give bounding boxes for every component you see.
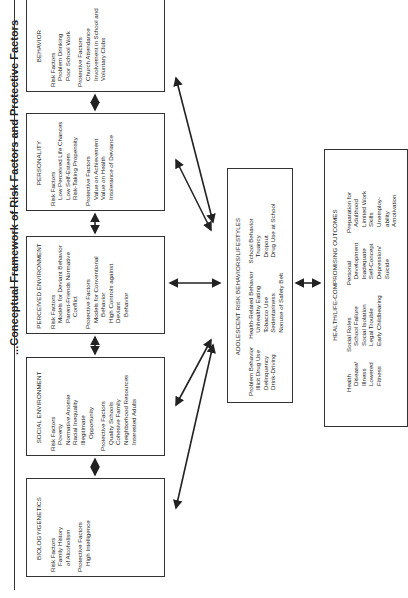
column-item: Suicide	[383, 243, 391, 285]
protective-label: Protective Factors	[99, 364, 107, 451]
figure-title: ...Conceptual Framework of Risk Factors …	[8, 0, 24, 598]
column-label: Social Roles	[345, 295, 353, 352]
column-item: Legal Trouble	[367, 295, 375, 352]
protective-item: High Intelligence	[84, 485, 92, 572]
column-label: Problem Behavior	[247, 347, 255, 396]
protective-item: Behavior	[99, 243, 107, 329]
risk-item: Poverty	[56, 364, 64, 451]
risk-label: Risk Factors	[49, 364, 57, 451]
risk-label: Risk Factors	[49, 5, 57, 87]
risk-item: Conflict	[71, 243, 79, 329]
risk-item: Models for Deviant Behavior	[56, 243, 64, 329]
title-rule	[14, 0, 15, 590]
risk-item: Illegitimate	[79, 364, 87, 451]
box-health-life-outcomes: HEALTH/LIFE-COMPROMISING OUTCOMES Health…	[324, 149, 408, 427]
column-item: Delinquency	[262, 347, 270, 396]
column-item: Inadequate	[360, 243, 368, 285]
arrow-biology-central	[176, 345, 213, 508]
column-item: Skills	[367, 191, 375, 233]
column-item: Unemploy-	[375, 191, 383, 233]
protective-item: Cohesive Family	[114, 364, 122, 451]
protective-item: Involvement in School and	[92, 5, 100, 87]
title-area: ...Conceptual Framework of Risk Factors …	[0, 0, 20, 598]
column-item: Truancy	[254, 204, 262, 264]
protective-item: Church Attendance	[84, 5, 92, 87]
protective-label: Protective Factors	[76, 485, 84, 572]
box-behavior: BEHAVIOR Risk Factors Problem Drinking P…	[26, 0, 165, 92]
protective-item: Models for Conventional	[92, 243, 100, 329]
risk-item: Low Perceived Life Chances	[56, 120, 64, 206]
box-heading: PERCEIVED ENVIRONMENT	[35, 243, 43, 329]
column-item: Amotivation	[390, 191, 398, 233]
column-item: Drug Use at School	[269, 204, 277, 264]
column-item: Early Childbearing	[375, 295, 383, 352]
column-item: Drink-Driving	[269, 347, 277, 396]
protective-item: Neighborhood Resources	[122, 364, 130, 451]
protective-label: Protective Factors	[84, 243, 92, 329]
arrow-social-central	[176, 340, 211, 405]
box-heading: BIOLOGY/GENETICS	[35, 485, 43, 572]
protective-label: Protective Factors	[76, 5, 84, 87]
column-item: Nonuse of Safety Belt	[277, 271, 285, 338]
risk-item: Racial Inequality	[71, 364, 79, 451]
risk-item: Poor School Work	[64, 5, 72, 87]
box-biology-genetics: BIOLOGY/GENETICS Risk Factors Family His…	[26, 478, 165, 577]
risk-item: Risk-Taking Propensity	[71, 120, 79, 206]
box-heading: SOCIAL ENVIRONMENT	[35, 364, 43, 451]
risk-item: of Alcoholism	[64, 485, 72, 572]
column-item: Disease/	[352, 362, 360, 392]
box-heading: HEALTH/LIFE-COMPROMISING OUTCOMES	[331, 158, 339, 392]
column-item: Social Isolation	[360, 295, 368, 352]
protective-label: Protective Factors	[84, 120, 92, 206]
column-item: Illness	[360, 362, 368, 392]
column-item: Fitness	[375, 362, 383, 392]
outcome-column: Social Roles School Failure Social Isola…	[345, 295, 398, 352]
column-item: Development	[352, 243, 360, 285]
box-personality: PERSONALITY Risk Factors Low Perceived L…	[26, 113, 165, 211]
protective-item: Interested Adults	[130, 364, 138, 451]
risk-item: Parent-Friends Normative	[64, 243, 72, 329]
behavior-column: Health-Related Behavior Unhealthy Eating…	[247, 271, 285, 338]
protective-item: Value on Health	[99, 120, 107, 206]
column-item: ability	[383, 191, 391, 233]
column-item: Depression/	[375, 243, 383, 285]
column-item: Limited Work	[360, 191, 368, 233]
column-label: Health	[345, 362, 353, 392]
risk-item: Low Self-Esteem	[64, 120, 72, 206]
box-perceived-environment: PERCEIVED ENVIRONMENT Risk Factors Model…	[26, 236, 165, 334]
column-label: School Behavior	[247, 204, 255, 264]
box-social-environment: SOCIAL ENVIRONMENT Risk Factors Poverty …	[26, 357, 165, 456]
outcome-column: Preparation for Adulthood Limited Work S…	[345, 191, 398, 233]
behavior-column: Problem Behavior Illicit Drug Use Delinq…	[247, 347, 285, 396]
box-heading: BEHAVIOR	[35, 5, 43, 87]
column-item: Tobacco Use	[262, 271, 270, 338]
column-item: Lowered	[367, 362, 375, 392]
box-heading: ADOLESCENT RISK BEHAVIORS/LIFESTYLES	[234, 177, 242, 396]
column-item: School Failure	[352, 295, 360, 352]
column-item: Unhealthy Eating	[254, 271, 262, 338]
outcome-column: Health Disease/ Illness Lowered Fitness	[345, 362, 398, 392]
protective-item: Quality Schools	[107, 364, 115, 451]
risk-label: Risk Factors	[49, 120, 57, 206]
risk-label: Risk Factors	[49, 243, 57, 329]
column-item: Adulthood	[352, 191, 360, 233]
risk-item: Opportunity	[87, 364, 95, 451]
column-item: Sedentariness	[269, 271, 277, 338]
risk-label: Risk Factors	[49, 485, 57, 572]
column-label: Health-Related Behavior	[247, 271, 255, 338]
protective-item: Voluntary Clubs	[99, 5, 107, 87]
column-item: Illicit Drug Use	[254, 347, 262, 396]
risk-item: Family History	[56, 485, 64, 572]
behavior-column: School Behavior Truancy Dropout Drug Use…	[247, 204, 285, 264]
protective-item: Behavior	[122, 243, 130, 329]
column-item: Dropout	[262, 204, 270, 264]
risk-item: Normative Anomie	[64, 364, 72, 451]
column-label: Preparation for	[345, 191, 353, 233]
column-label: Personal	[345, 243, 353, 285]
risk-item: Problem Drinking	[56, 5, 64, 87]
protective-item: Intolerance of Deviance	[107, 120, 115, 206]
column-item: Self-Concept	[367, 243, 375, 285]
box-adolescent-risk-behaviors: ADOLESCENT RISK BEHAVIORS/LIFESTYLES Pro…	[227, 168, 293, 403]
box-heading: PERSONALITY	[35, 120, 43, 206]
outcome-column: Personal Development Inadequate Self-Con…	[345, 243, 398, 285]
